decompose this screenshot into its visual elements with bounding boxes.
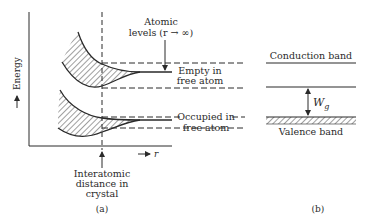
caption-b: (b) bbox=[312, 204, 325, 214]
gap-label-subscript: g bbox=[324, 102, 329, 111]
r-label: r bbox=[154, 149, 159, 159]
energy-label: Energy bbox=[12, 56, 22, 90]
valence-band-fill bbox=[266, 117, 356, 124]
panel-a: Energy r Atomic levels (r → ∞) Empty in … bbox=[12, 12, 245, 214]
panel-b: Conduction band Wg Valence band (b) bbox=[266, 50, 356, 214]
atomic-levels-label-line1: Atomic bbox=[143, 16, 178, 27]
occupied-label-line2: free atom bbox=[183, 122, 230, 133]
lower-band-fill bbox=[58, 90, 172, 136]
empty-label-line2: free atom bbox=[177, 75, 224, 86]
conduction-band-label: Conduction band bbox=[270, 50, 352, 61]
atomic-levels-label-line2: levels (r → ∞) bbox=[129, 27, 193, 38]
valence-band-label: Valence band bbox=[278, 126, 343, 137]
caption-a: (a) bbox=[96, 204, 108, 214]
interatomic-label-line3: crystal bbox=[86, 188, 119, 199]
occupied-label-line1: Occupied in bbox=[177, 111, 235, 122]
energy-label-group: Energy bbox=[12, 56, 22, 108]
band-diagram: Energy r Atomic levels (r → ∞) Empty in … bbox=[0, 0, 365, 221]
upper-band-fill bbox=[62, 32, 172, 87]
gap-label: Wg bbox=[313, 96, 329, 111]
